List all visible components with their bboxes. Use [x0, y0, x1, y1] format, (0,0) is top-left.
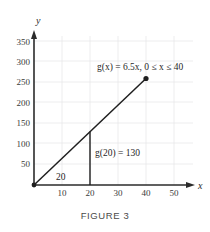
x-tick-label: 40: [142, 188, 152, 198]
y-tick-label: 50: [21, 159, 31, 169]
y-tick-label: 250: [17, 77, 31, 87]
y-axis: [31, 30, 37, 185]
equation-annotation: g(x) = 6.5x, 0 ≤ x ≤ 40: [97, 62, 183, 73]
y-tick-label: 300: [17, 57, 31, 67]
x-tick-labels: 10 20 30 40 50: [58, 188, 180, 198]
x-axis-arrow: [186, 182, 195, 188]
run-annotation: 20: [56, 172, 66, 182]
figure-container: y x 350 300 250 200 150 100 50 10 20 30 …: [0, 0, 210, 232]
y-tick-label: 150: [17, 118, 31, 128]
x-tick-label: 30: [114, 188, 124, 198]
y-tick-label: 350: [17, 37, 31, 47]
endpoint-marker: [143, 76, 148, 81]
value-annotation: g(20) = 130: [95, 148, 140, 159]
y-tick-labels: 350 300 250 200 150 100 50: [17, 37, 31, 170]
y-tick-label: 100: [17, 139, 31, 149]
y-axis-arrow: [31, 30, 37, 39]
x-axis-label: x: [197, 180, 203, 191]
x-tick-label: 20: [86, 188, 96, 198]
y-axis-label: y: [35, 15, 41, 26]
x-tick-label: 50: [170, 188, 180, 198]
y-tick-label: 200: [17, 98, 31, 108]
origin-point-marker: [32, 183, 37, 188]
figure-caption: FIGURE 3: [81, 210, 130, 221]
x-tick-label: 10: [58, 188, 68, 198]
graph-plot: y x 350 300 250 200 150 100 50 10 20 30 …: [0, 0, 210, 232]
